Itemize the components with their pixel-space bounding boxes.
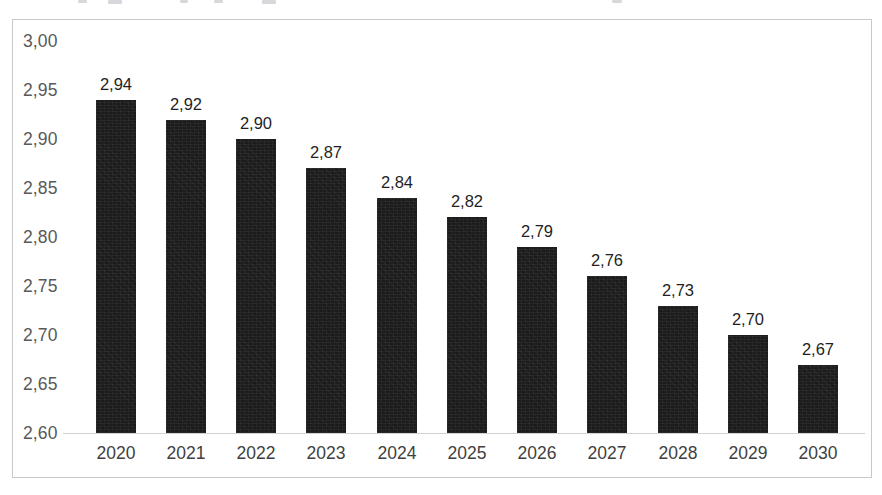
bar-2024[interactable]: [377, 198, 417, 433]
x-axis-baseline: [63, 433, 865, 434]
bar-value-label-2028: 2,73: [638, 282, 718, 299]
bar-2026[interactable]: [517, 247, 557, 433]
bar-value-label-2021: 2,92: [146, 96, 226, 113]
bar-value-label-2024: 2,84: [357, 174, 437, 191]
chart-page: 3,00 2,95 2,90 2,85 2,80 2,75 2,70 2,65 …: [0, 0, 882, 495]
y-axis-tick-label: 2,85: [23, 180, 81, 198]
bar-2020[interactable]: [96, 100, 136, 433]
x-axis-tick-label-2030: 2030: [778, 445, 858, 463]
y-axis-tick-label: 2,95: [23, 82, 81, 100]
bar-2028[interactable]: [658, 306, 698, 433]
bar-2021[interactable]: [166, 120, 206, 433]
bar-2030[interactable]: [798, 365, 838, 433]
y-axis-tick-label: 3,00: [23, 33, 81, 51]
x-axis-tick-label-2024: 2024: [357, 445, 437, 463]
y-axis-tick-label: 2,90: [23, 131, 81, 149]
bar-value-label-2022: 2,90: [216, 115, 296, 132]
bar-value-label-2023: 2,87: [286, 144, 366, 161]
chart-frame: 3,00 2,95 2,90 2,85 2,80 2,75 2,70 2,65 …: [12, 19, 872, 478]
bar-value-label-2029: 2,70: [708, 311, 788, 328]
x-axis-tick-label-2022: 2022: [216, 445, 296, 463]
bar-2025[interactable]: [447, 217, 487, 433]
bar-value-label-2025: 2,82: [427, 193, 507, 210]
bar-value-label-2027: 2,76: [567, 252, 647, 269]
bar-value-label-2026: 2,79: [497, 223, 577, 240]
y-axis-tick-label: 2,80: [23, 229, 81, 247]
x-axis-tick-label-2020: 2020: [76, 445, 156, 463]
bar-value-label-2020: 2,94: [76, 76, 156, 93]
x-axis-tick-label-2023: 2023: [286, 445, 366, 463]
bar-2022[interactable]: [236, 139, 276, 433]
x-axis-tick-label-2026: 2026: [497, 445, 577, 463]
bar-value-label-2030: 2,67: [778, 341, 858, 358]
y-axis-tick-label: 2,65: [23, 376, 81, 394]
y-axis-tick-label: 2,75: [23, 278, 81, 296]
x-axis-tick-label-2028: 2028: [638, 445, 718, 463]
x-axis-tick-label-2029: 2029: [708, 445, 788, 463]
x-axis-tick-label-2027: 2027: [567, 445, 647, 463]
x-axis-tick-label-2025: 2025: [427, 445, 507, 463]
bar-2029[interactable]: [728, 335, 768, 433]
clipped-text-above-figure: [0, 0, 882, 14]
y-axis-tick-label: 2,70: [23, 327, 81, 345]
x-axis-tick-label-2021: 2021: [146, 445, 226, 463]
bar-2027[interactable]: [587, 276, 627, 433]
bar-2023[interactable]: [306, 168, 346, 433]
plot-area: 3,00 2,95 2,90 2,85 2,80 2,75 2,70 2,65 …: [13, 20, 871, 477]
